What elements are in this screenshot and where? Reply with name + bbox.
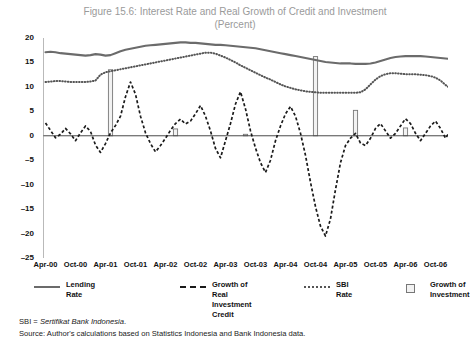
x-tick-oct-00: Oct-00 <box>60 260 92 269</box>
x-tick-apr-01: Apr-01 <box>90 260 122 269</box>
dashed-line-key <box>180 286 206 288</box>
y-tick-20: 20 <box>4 34 34 42</box>
y-tick-neg10: –10 <box>4 181 34 189</box>
y-tick-15: 15 <box>4 58 34 66</box>
y-tick-neg15: –15 <box>4 205 34 213</box>
x-tick-apr-04: Apr-04 <box>270 260 302 269</box>
chart-svg <box>43 38 448 258</box>
y-tick-neg5: –5 <box>4 156 34 164</box>
x-tick-apr-05: Apr-05 <box>330 260 362 269</box>
lending-rate-line <box>46 42 449 64</box>
investment-bar <box>403 128 407 136</box>
y-tick-5: 5 <box>4 107 34 115</box>
plot-area <box>43 38 448 258</box>
x-tick-apr-00: Apr-00 <box>30 260 62 269</box>
legend-label: Growth of Investment <box>430 280 470 300</box>
y-tick-10: 10 <box>4 83 34 91</box>
x-tick-apr-02: Apr-02 <box>150 260 182 269</box>
figure-title-line2: (Percent) <box>40 18 430 31</box>
legend-label: Lending Rate <box>66 280 95 300</box>
legend-label: Growth of Real Investment Credit <box>212 280 252 320</box>
investment-credit-line <box>46 82 449 236</box>
investment-bar <box>353 110 357 135</box>
x-tick-oct-03: Oct-03 <box>240 260 272 269</box>
legend-label: SBI Rate <box>336 280 352 300</box>
investment-bar <box>313 57 317 136</box>
sbi-note-prefix: SBI = <box>19 317 40 326</box>
figure-title: Figure 15.6: Interest Rate and Real Grow… <box>40 5 430 31</box>
source-note: Source: Author's calculations based on S… <box>19 328 449 340</box>
investment-bar <box>173 129 177 136</box>
investment-bars-group <box>108 57 407 136</box>
y-tick-neg20: –20 <box>4 230 34 238</box>
figure-notes: SBI = Sertifikat Bank Indonesia. Source:… <box>19 316 449 339</box>
investment-bar <box>108 70 112 136</box>
x-tick-apr-06: Apr-06 <box>390 260 422 269</box>
sbi-note-suffix: . <box>124 317 126 326</box>
chart-legend: Lending RateGrowth of Real Investment Cr… <box>34 280 454 308</box>
x-tick-apr-03: Apr-03 <box>210 260 242 269</box>
figure-title-line1: Figure 15.6: Interest Rate and Real Grow… <box>84 6 387 17</box>
solid-line-key <box>34 286 60 296</box>
x-tick-oct-01: Oct-01 <box>120 260 152 269</box>
sbi-note-italic: Sertifikat Bank Indonesia <box>40 317 124 326</box>
sbi-definition-note: SBI = Sertifikat Bank Indonesia. <box>19 316 449 328</box>
x-tick-oct-05: Oct-05 <box>360 260 392 269</box>
y-tick-0: 0 <box>4 132 34 140</box>
x-tick-oct-04: Oct-04 <box>300 260 332 269</box>
x-tick-oct-06: Oct-06 <box>420 260 452 269</box>
bar-swatch-key <box>406 284 415 293</box>
x-tick-oct-02: Oct-02 <box>180 260 212 269</box>
dotted-line-key <box>304 286 330 288</box>
